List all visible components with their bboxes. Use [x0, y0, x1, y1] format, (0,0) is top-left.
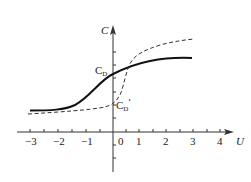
cdp-label: CD′ — [116, 96, 131, 113]
y-axis-label: C — [101, 24, 109, 36]
x-axis-label: U — [236, 135, 245, 147]
tick-label: −2 — [53, 135, 65, 147]
tick-label: 3 — [190, 135, 196, 147]
cd-label: CD — [95, 64, 107, 78]
series-cd-solid — [30, 58, 192, 111]
series-cdp-dashed — [28, 39, 194, 114]
tick-label: −3 — [25, 135, 37, 147]
x-axis — [17, 129, 234, 135]
x-tick-labels: −3 −2 −1 0 1 2 3 4 — [25, 135, 223, 147]
tick-label: 1 — [136, 135, 142, 147]
tick-label: 2 — [163, 135, 169, 147]
tick-label: 4 — [217, 135, 223, 147]
tick-label: −1 — [81, 135, 93, 147]
tick-label: 0 — [118, 135, 124, 147]
chart-canvas: C U CD CD′ −3 −2 −1 0 1 2 3 4 — [0, 0, 251, 182]
